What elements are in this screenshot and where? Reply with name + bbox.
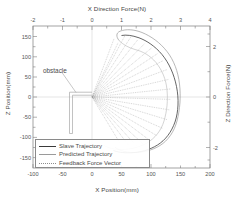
tick-left-1: 100 (5, 54, 31, 60)
tick-left-6: -150 (5, 155, 31, 161)
tick-bottom-5: 150 (168, 171, 194, 177)
legend-label-feedback-force-vector: Feedback Force Vector (59, 159, 121, 168)
tick-bottom-0: -100 (20, 171, 46, 177)
axis-title-top: X Direction Force(N) (0, 5, 234, 12)
tick-top-0: -2 (20, 17, 46, 23)
tick-top-4: 2 (138, 17, 164, 23)
tick-bottom-6: 200 (197, 171, 223, 177)
chart-figure: X Direction Force(N) X Position(mm) Z Po… (0, 0, 234, 199)
tick-bottom-3: 50 (109, 171, 135, 177)
tick-left-4: -50 (5, 114, 31, 120)
tick-top-1: -1 (50, 17, 76, 23)
axis-title-bottom: X Position(mm) (0, 186, 234, 193)
right-axis-ticks (206, 34, 210, 160)
chart-legend: Slave Trajectory Predicted Trajectory Fe… (35, 139, 150, 168)
tick-bottom-4: 100 (138, 171, 164, 177)
tick-right-1: 0 (213, 94, 234, 100)
chart-plot-area (0, 0, 234, 199)
tick-bottom-2: 0 (79, 171, 105, 177)
legend-label-slave-trajectory: Slave Trajectory (59, 142, 102, 151)
legend-item-predicted-trajectory: Predicted Trajectory (36, 150, 149, 159)
legend-swatch-solid-grey-icon (39, 151, 56, 157)
tick-right-2: -2 (213, 145, 234, 151)
tick-left-3: 0 (5, 94, 31, 100)
tick-left-0: 150 (5, 34, 31, 40)
tick-top-6: 4 (197, 17, 223, 23)
legend-item-feedback-force-vector: Feedback Force Vector (36, 159, 149, 168)
tick-top-2: 0 (79, 17, 105, 23)
tick-bottom-1: -50 (50, 171, 76, 177)
legend-label-predicted-trajectory: Predicted Trajectory (59, 150, 112, 159)
tick-top-3: 1 (109, 17, 135, 23)
tick-right-0: 2 (213, 44, 234, 50)
legend-swatch-solid-dark-icon (39, 143, 56, 149)
tick-left-5: -100 (5, 134, 31, 140)
tick-left-2: 50 (5, 74, 31, 80)
obstacle-shape (70, 92, 93, 133)
legend-swatch-dotted-icon (39, 160, 56, 166)
obstacle-annotation-label: obstacle (43, 67, 67, 74)
obstacle-leader-line (62, 73, 76, 93)
top-axis-ticks (33, 26, 210, 30)
legend-item-slave-trajectory: Slave Trajectory (36, 142, 149, 151)
feedback-force-vectors (92, 36, 171, 146)
tick-top-5: 3 (168, 17, 194, 23)
